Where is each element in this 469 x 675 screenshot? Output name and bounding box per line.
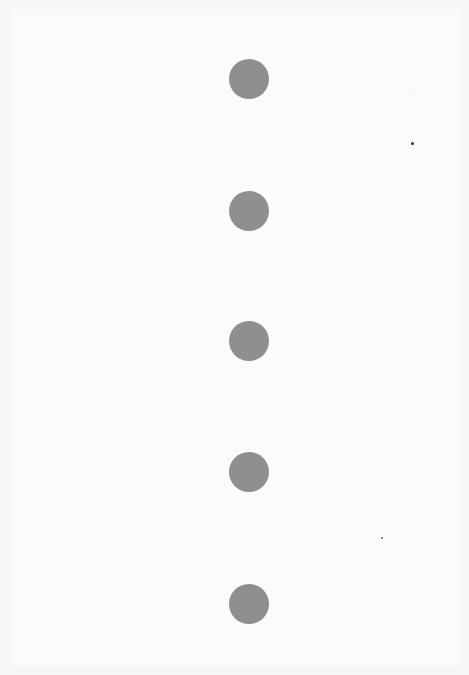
scanned-page <box>0 0 469 675</box>
scan-speck-2 <box>381 537 383 539</box>
gray-dot-3 <box>229 321 269 361</box>
gray-dot-1 <box>229 59 269 99</box>
gray-dot-5 <box>229 584 269 624</box>
scan-speck-3 <box>411 89 412 90</box>
gray-dot-2 <box>229 191 269 231</box>
gray-dot-4 <box>229 452 269 492</box>
scan-speck-1 <box>411 142 414 145</box>
